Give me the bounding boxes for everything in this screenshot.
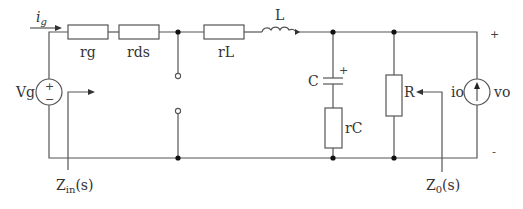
label-r: R — [404, 84, 415, 100]
resistor-rl — [204, 25, 244, 39]
label-io: io — [451, 84, 464, 100]
z0-arrow — [416, 89, 442, 172]
output-plus: + — [490, 28, 499, 41]
resistor-rg — [68, 25, 108, 39]
label-vg: Vg — [15, 84, 35, 100]
load-resistor-branch — [386, 29, 402, 160]
capacitor-polarity: + — [339, 64, 348, 77]
label-vo: vo — [493, 84, 510, 100]
voltage-source-vg: + − — [36, 79, 62, 106]
resistor-r — [386, 75, 402, 116]
switch-terminals — [175, 29, 180, 160]
node-top-switch — [175, 29, 180, 34]
inductor-l — [262, 27, 300, 35]
label-z0: Z0(s) — [426, 177, 460, 195]
output-minus: - — [492, 145, 496, 158]
current-source-io — [464, 79, 490, 105]
open-terminal-bottom — [175, 108, 180, 113]
current-label-ig: ig — [36, 9, 47, 27]
capacitor-branch — [323, 29, 343, 160]
label-l: L — [275, 7, 284, 23]
svg-text:+: + — [45, 80, 54, 93]
label-zin: Zin(s) — [56, 177, 93, 195]
circuit-diagram: ig rg rds + − Vg Zin(s) rL L — [0, 0, 523, 209]
resistor-rc — [325, 108, 342, 148]
node-bottom-switch — [175, 155, 180, 160]
resistor-rds — [119, 25, 159, 39]
open-terminal-top — [175, 73, 180, 78]
bottom-rail — [49, 105, 477, 158]
label-rg: rg — [80, 44, 96, 60]
label-c: C — [308, 73, 319, 89]
svg-text:−: − — [45, 93, 54, 106]
label-rds: rds — [127, 44, 150, 60]
top-rail — [49, 32, 477, 79]
label-rl: rL — [218, 44, 234, 60]
label-rc: rC — [345, 120, 362, 136]
